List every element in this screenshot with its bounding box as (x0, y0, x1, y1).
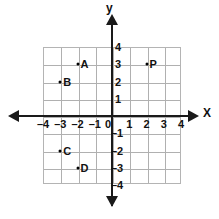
coordinate-plane-figure: X y –4–3–2–101234 4321–1–2–3–4 ABPCD (0, 0, 219, 219)
y-tick-label: 1 (115, 94, 121, 105)
x-tick-label: 4 (178, 119, 184, 130)
x-axis-line (16, 115, 189, 117)
y-tick-label: –1 (111, 128, 123, 139)
x-axis-label: X (203, 107, 211, 119)
x-tick-label: –4 (37, 119, 49, 130)
point-marker (76, 166, 79, 169)
y-tick-label: –4 (111, 180, 123, 191)
x-tick-label: 2 (143, 119, 149, 130)
point-marker (59, 80, 62, 83)
point-label: C (63, 145, 71, 156)
y-axis-up-arrow-icon (106, 14, 118, 25)
y-tick-label: 2 (115, 77, 121, 88)
x-tick-label: –3 (54, 119, 66, 130)
y-axis-down-arrow-icon (106, 196, 118, 207)
point-marker (59, 149, 62, 152)
x-tick-label: –1 (89, 119, 101, 130)
point-label: A (81, 59, 89, 70)
x-tick-label: –2 (71, 119, 83, 130)
point-marker (145, 63, 148, 66)
point-marker (76, 63, 79, 66)
x-tick-label: 1 (126, 119, 132, 130)
y-tick-label: –2 (111, 146, 123, 157)
point-label: B (63, 76, 71, 87)
y-tick-label: 3 (115, 59, 121, 70)
x-axis-right-arrow-icon (188, 110, 199, 122)
y-tick-label: –3 (111, 163, 123, 174)
x-tick-label: 3 (161, 119, 167, 130)
point-label: P (150, 59, 157, 70)
x-axis-left-arrow-icon (8, 110, 19, 122)
y-tick-label: 4 (115, 42, 121, 53)
point-label: D (81, 162, 89, 173)
y-axis-label: y (106, 2, 113, 14)
